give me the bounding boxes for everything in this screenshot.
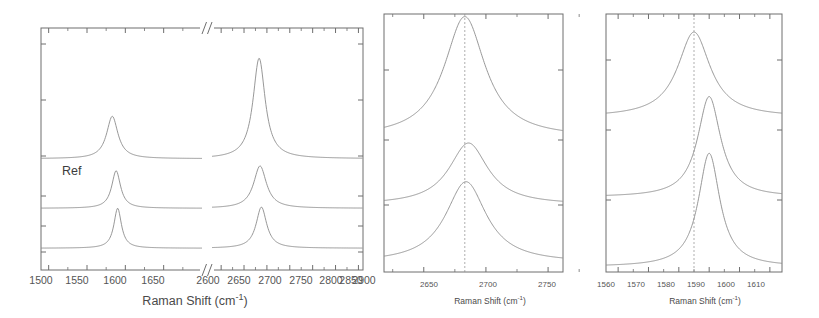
raman-spectra-figure: 1500 1550 1600 1650 2600 2650 2700 2750 … [0, 0, 819, 318]
spectrum-trace [384, 143, 563, 201]
xtick-label: 1550 [57, 274, 97, 286]
spectrum-trace [606, 32, 782, 113]
spectrum-trace [212, 207, 363, 248]
x-axis-title-close: ) [243, 294, 247, 308]
panel-g-band-plot [600, 0, 819, 318]
spectrum-trace [41, 208, 202, 248]
panel-g-band-zoom: 1560 1570 1580 1590 1600 1610 Raman Shif… [600, 0, 819, 318]
xtick-label: 1500 [21, 274, 61, 286]
spectrum-trace [212, 58, 363, 158]
x-axis-title-base: Raman Shift (cm [669, 296, 732, 306]
x-axis-title-close: ) [523, 296, 526, 306]
ref-label: Ref [62, 164, 81, 178]
spectrum-trace [41, 116, 202, 158]
panel-2d-band-zoom: 2650 2700 2750 Raman Shift (cm-1) [380, 0, 600, 318]
x-axis-title: Raman Shift (cm-1) [95, 292, 295, 308]
x-axis-title: Raman Shift (cm-1) [635, 294, 775, 306]
spectrum-trace [384, 182, 563, 258]
xtick-label: 2650 [409, 280, 449, 289]
x-axis-title-base: Raman Shift (cm [142, 294, 235, 308]
xtick-label: 1610 [736, 280, 776, 289]
spectrum-trace [384, 17, 563, 131]
xtick-label: 2700 [468, 280, 508, 289]
panel-broad-range-plot [0, 0, 380, 318]
spectrum-trace [212, 166, 363, 208]
xtick-label: 1600 [95, 274, 135, 286]
x-axis-title-close: ) [738, 296, 741, 306]
xtick-label: 2750 [527, 280, 567, 289]
panel-2d-band-plot [380, 0, 600, 318]
xtick-label: 1650 [133, 274, 173, 286]
panel-broad-range: 1500 1550 1600 1650 2600 2650 2700 2750 … [0, 0, 380, 318]
x-axis-title: Raman Shift (cm-1) [420, 294, 560, 306]
x-axis-title-base: Raman Shift (cm [454, 296, 517, 306]
xtick-label: 2900 [344, 274, 384, 286]
